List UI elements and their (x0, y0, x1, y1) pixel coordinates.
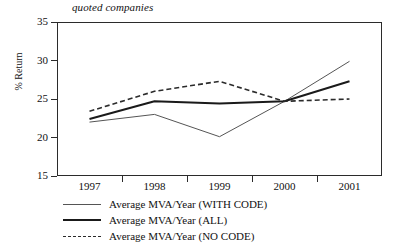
y-tick-mark (51, 137, 57, 138)
legend-item[interactable]: Average MVA/Year (NO CODE) (63, 228, 363, 244)
y-tick-mark (51, 176, 57, 177)
x-tick-mark (187, 176, 188, 182)
legend-label: Average MVA/Year (WITH CODE) (109, 196, 267, 212)
legend-label: Average MVA/Year (ALL) (109, 212, 227, 228)
y-tick-label: 25 (22, 92, 48, 104)
y-tick-label: 15 (22, 169, 48, 181)
legend-item[interactable]: Average MVA/Year (ALL) (63, 212, 363, 228)
chart-legend: Average MVA/Year (WITH CODE)Average MVA/… (63, 196, 363, 244)
y-tick-label: 35 (22, 15, 48, 27)
y-tick-label: 20 (22, 131, 48, 143)
legend-swatch-dashed (63, 236, 101, 237)
x-tick-label: 1997 (65, 180, 115, 192)
x-tick-label: 2001 (325, 180, 375, 192)
plot-area (57, 22, 382, 176)
y-axis-label: % Return (13, 32, 24, 112)
legend-swatch-thick (63, 219, 101, 221)
y-tick-mark (51, 99, 57, 100)
legend-swatch-thin (63, 204, 101, 205)
y-tick-label: 30 (22, 54, 48, 66)
x-tick-label: 1998 (130, 180, 180, 192)
x-tick-label: 2000 (260, 180, 310, 192)
x-tick-mark (252, 176, 253, 182)
y-tick-mark (51, 60, 57, 61)
x-tick-label: 1999 (195, 180, 245, 192)
x-tick-mark (122, 176, 123, 182)
x-tick-mark (317, 176, 318, 182)
legend-item[interactable]: Average MVA/Year (WITH CODE) (63, 196, 363, 212)
legend-label: Average MVA/Year (NO CODE) (109, 228, 254, 244)
chart-title: quoted companies (72, 1, 153, 13)
y-tick-mark (51, 22, 57, 23)
line-chart: quoted companies 3530252015 % Return 199… (0, 0, 409, 247)
